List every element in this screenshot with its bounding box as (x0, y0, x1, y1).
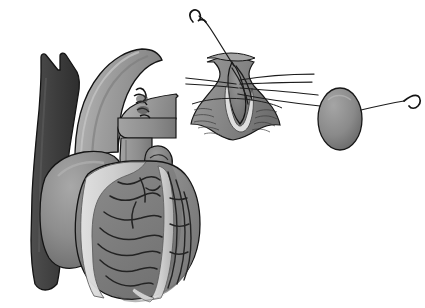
vein-graft-oval (318, 88, 362, 150)
cabg-illustration-svg (0, 0, 425, 308)
aortic-graft-limb (118, 118, 176, 138)
medical-illustration-figure (0, 0, 425, 308)
